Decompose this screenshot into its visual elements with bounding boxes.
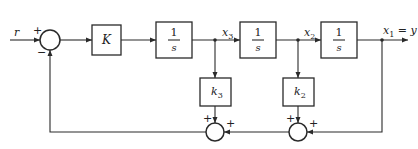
gain-K-label: K: [101, 33, 112, 47]
summing-junction-k3: + +: [203, 112, 235, 141]
output-label: x1 = y: [383, 24, 418, 39]
svg-text:s: s: [336, 42, 341, 53]
svg-text:s: s: [255, 42, 260, 53]
svg-text:1: 1: [336, 26, 343, 39]
integrator-block-1: 1 s: [156, 22, 192, 58]
block-diagram: r + − K 1 s x3 1 s x2 1: [0, 0, 418, 149]
svg-text:+: +: [226, 117, 235, 130]
summing-junction-main: + −: [33, 24, 60, 59]
svg-text:1: 1: [255, 26, 262, 39]
signal-x3-label: x3: [222, 26, 233, 41]
signal-x2-label: x2: [304, 26, 315, 41]
svg-text:1: 1: [171, 26, 178, 39]
svg-text:+: +: [286, 112, 295, 125]
svg-text:+: +: [203, 112, 212, 125]
gain-block-K: K: [92, 25, 121, 55]
integrator-block-3: 1 s: [321, 22, 357, 58]
input-label: r: [14, 26, 20, 39]
integrator-block-2: 1 s: [240, 22, 276, 58]
svg-text:s: s: [171, 42, 176, 53]
minus-sign: −: [37, 46, 46, 59]
svg-text:+: +: [309, 117, 318, 130]
summing-junction-k2: + +: [286, 112, 318, 141]
gain-block-k2: k2: [283, 78, 314, 106]
plus-sign: +: [33, 24, 42, 37]
gain-block-k3: k3: [200, 78, 231, 106]
